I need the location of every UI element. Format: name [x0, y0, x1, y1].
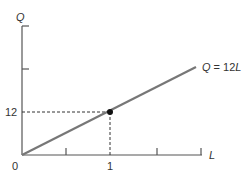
highlight-point [107, 109, 113, 115]
line-equation-label: Q = 12L [202, 61, 241, 73]
line-eq-rest: = 12 [211, 61, 236, 73]
x-axis-label: L [209, 149, 215, 161]
line-eq-l: L [235, 61, 241, 73]
y-axis-label: Q [16, 11, 25, 23]
chart: Q L 0 1 12 Q = 12L [0, 0, 248, 178]
y-tick-label-12: 12 [5, 106, 17, 118]
x-tick-label-1: 1 [107, 160, 113, 172]
origin-label: 0 [12, 160, 18, 172]
